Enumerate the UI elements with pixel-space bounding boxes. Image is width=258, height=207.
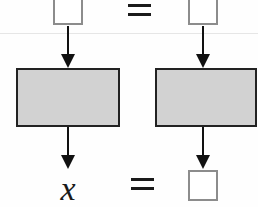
equals-bar-upper (128, 4, 151, 7)
bottom-right-down-arrow-icon (196, 127, 210, 169)
arrow-head (61, 155, 75, 169)
bottom-right-empty-square[interactable] (188, 170, 218, 201)
top-right-down-arrow-icon (196, 26, 210, 68)
bottom-left-down-arrow-icon (61, 127, 75, 169)
arrow-shaft (67, 127, 69, 157)
arrow-shaft (202, 26, 204, 56)
arrow-head (196, 155, 210, 169)
figure-canvas: x (0, 0, 258, 207)
equals-bar-upper (131, 178, 154, 181)
equals-bar-lower (131, 187, 154, 190)
page-separator-rule (0, 33, 258, 34)
result-variable-x: x (48, 172, 88, 206)
equals-bar-lower (128, 13, 151, 16)
right-process-box[interactable] (155, 68, 257, 127)
top-left-empty-square[interactable] (53, 0, 83, 25)
bottom-equals-icon (131, 178, 154, 190)
arrow-shaft (67, 26, 69, 56)
arrow-head (196, 54, 210, 68)
arrow-shaft (202, 127, 204, 157)
top-equals-icon (128, 4, 151, 16)
left-process-box[interactable] (16, 68, 120, 127)
top-left-down-arrow-icon (61, 26, 75, 68)
top-right-empty-square[interactable] (188, 0, 218, 25)
arrow-head (61, 54, 75, 68)
